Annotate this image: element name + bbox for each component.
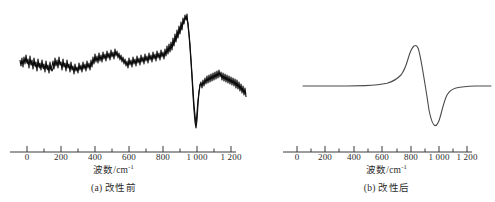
x-axis-title-a: 波数/cm-1 <box>0 162 237 176</box>
noisy-spectrum-trace-a-fill <box>20 17 246 125</box>
panel-b: 0 200 400 600 800 1 000 1 200 波数/cm-1 (b… <box>247 0 494 202</box>
panel-caption-b: (b) 改性后 <box>263 180 495 194</box>
panel-caption-a: (a) 改性前 <box>0 180 237 194</box>
x-axis-title-text: 波数/cm <box>93 165 128 175</box>
figure-container: 0 200 400 600 800 1 000 1 200 波数/cm-1 (a… <box>0 0 495 202</box>
x-axis-title-exponent: -1 <box>128 163 134 170</box>
noisy-spectrum-trace-a <box>20 14 246 128</box>
smooth-spectrum-trace-b <box>303 46 491 126</box>
plot-area-a <box>0 0 247 145</box>
x-axis-title-exponent: -1 <box>401 163 407 170</box>
plot-area-b <box>247 0 494 145</box>
x-axis-title-text: 波数/cm <box>366 165 401 175</box>
panel-a: 0 200 400 600 800 1 000 1 200 波数/cm-1 (a… <box>0 0 247 202</box>
x-axis-title-b: 波数/cm-1 <box>263 162 495 176</box>
